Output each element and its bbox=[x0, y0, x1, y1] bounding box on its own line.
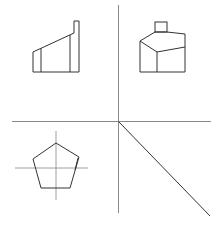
side-view bbox=[140, 22, 185, 72]
miter-line bbox=[119, 122, 211, 217]
projection-drawing bbox=[0, 0, 224, 227]
projection-axes bbox=[12, 5, 211, 216]
front-view bbox=[33, 21, 79, 72]
top-view bbox=[15, 131, 88, 200]
